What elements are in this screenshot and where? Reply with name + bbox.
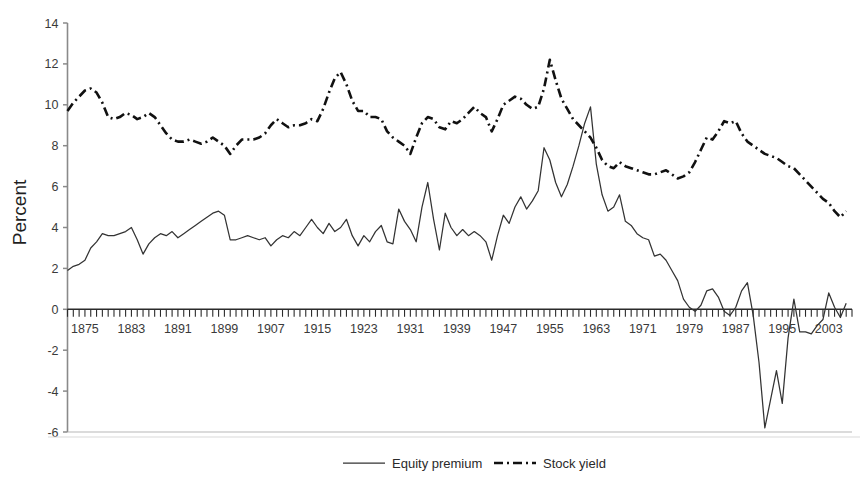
x-tick-label: 1995 bbox=[768, 322, 796, 336]
chart-background bbox=[0, 0, 863, 491]
y-tick-label: 10 bbox=[45, 98, 59, 112]
x-tick-label: 1955 bbox=[536, 322, 564, 336]
x-tick-label: 1947 bbox=[489, 322, 517, 336]
y-tick-label: 6 bbox=[52, 180, 59, 194]
x-tick-label: 1907 bbox=[257, 322, 285, 336]
x-tick-label: 1891 bbox=[164, 322, 192, 336]
x-tick-label: 1939 bbox=[443, 322, 471, 336]
chart-figure: 14121086420-2-4-6 1875188318911899190719… bbox=[0, 0, 863, 491]
x-tick-label: 1875 bbox=[71, 322, 99, 336]
y-tick-label: 0 bbox=[52, 303, 59, 317]
x-tick-label: 1931 bbox=[396, 322, 424, 336]
y-tick-label: 8 bbox=[52, 139, 59, 153]
x-tick-label: 1987 bbox=[722, 322, 750, 336]
y-tick-label: 12 bbox=[45, 57, 59, 71]
y-tick-label: 4 bbox=[52, 221, 59, 235]
y-tick-label: 2 bbox=[52, 262, 59, 276]
x-tick-label: 1915 bbox=[303, 322, 331, 336]
y-tick-label: 14 bbox=[45, 17, 59, 31]
y-tick-label: -2 bbox=[47, 344, 58, 358]
x-tick-label: 1979 bbox=[675, 322, 703, 336]
y-axis-title-text: Percent bbox=[9, 179, 30, 245]
x-tick-label: 1899 bbox=[210, 322, 238, 336]
y-axis-title: Percent bbox=[9, 179, 30, 245]
legend-label-1: Equity premium bbox=[392, 456, 482, 471]
x-tick-label: 1883 bbox=[118, 322, 146, 336]
x-tick-label: 1971 bbox=[629, 322, 657, 336]
x-tick-label: 1963 bbox=[582, 322, 610, 336]
x-tick-label: 1923 bbox=[350, 322, 378, 336]
y-tick-label: -4 bbox=[47, 385, 58, 399]
legend-label-2: Stock yield bbox=[543, 456, 606, 471]
line-chart: 14121086420-2-4-6 1875188318911899190719… bbox=[0, 0, 863, 491]
